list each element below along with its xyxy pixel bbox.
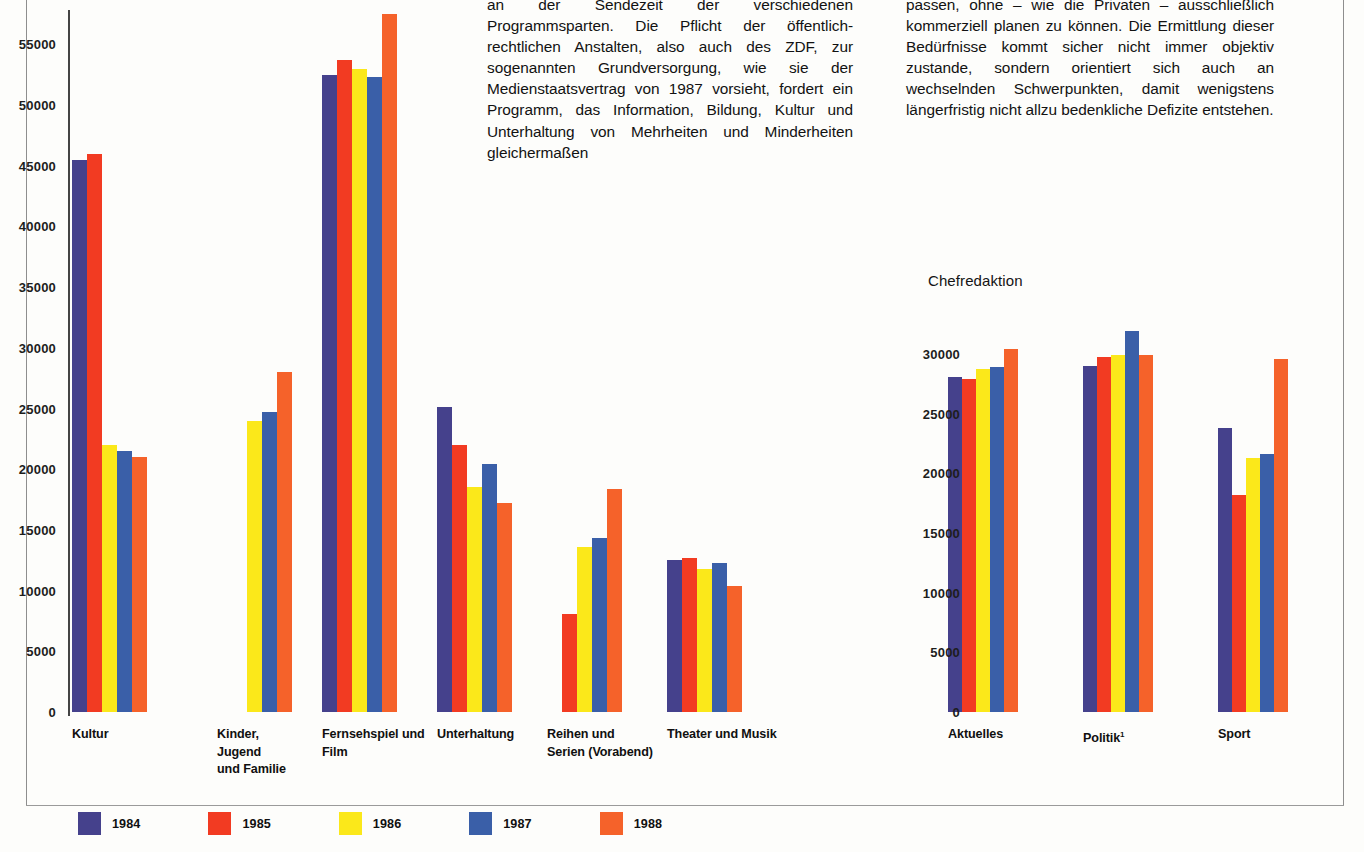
page-canvas: an der Sendezeit der verschiedenen Progr… <box>0 0 1364 852</box>
y-axis-line-left <box>68 10 70 716</box>
legend-swatch-1985 <box>208 812 231 835</box>
legend-item: 1984 <box>78 812 140 835</box>
bar-1987 <box>712 563 727 712</box>
legend-item: 1987 <box>469 812 531 835</box>
y-axis-labels-left: 0500010000150002000025000300003500040000… <box>0 14 64 712</box>
chart-title-chefredaktion: Chefredaktion <box>928 272 1023 289</box>
bar-1984 <box>72 160 87 712</box>
bar-1986 <box>1111 355 1125 712</box>
bar-1987 <box>592 538 607 712</box>
bar-1988 <box>1139 355 1153 712</box>
bar-1988 <box>132 457 147 712</box>
legend-label: 1988 <box>634 817 662 831</box>
y-axis-tick-label: 0 <box>953 705 960 720</box>
y-axis-tick-label: 10000 <box>19 583 56 598</box>
bar-1985 <box>87 154 102 712</box>
y-axis-tick-label: 5000 <box>26 644 56 659</box>
y-axis-labels-right: 050001000015000200002500030000 <box>908 318 968 712</box>
bar-1986 <box>102 445 117 712</box>
y-axis-tick-label: 15000 <box>19 522 56 537</box>
bar-1988 <box>1274 359 1288 712</box>
bar-group <box>322 14 397 712</box>
bar-group <box>547 14 622 712</box>
bar-1987 <box>1125 331 1139 712</box>
y-axis-tick-label: 50000 <box>19 98 56 113</box>
bar-1986 <box>976 369 990 712</box>
bar-1987 <box>262 412 277 712</box>
y-axis-tick-label: 40000 <box>19 219 56 234</box>
legend-swatch-1988 <box>600 812 623 835</box>
category-label: Sport <box>1218 726 1364 744</box>
bar-1984 <box>1218 428 1232 712</box>
legend-swatch-1984 <box>78 812 101 835</box>
bar-1985 <box>1232 495 1246 712</box>
legend-item: 1986 <box>339 812 401 835</box>
bar-1987 <box>482 464 497 712</box>
y-axis-tick-label: 10000 <box>923 585 960 600</box>
bar-1985 <box>562 614 577 712</box>
bar-group <box>667 14 742 712</box>
bar-1988 <box>607 489 622 712</box>
chart-programmsparten: 0500010000150002000025000300003500040000… <box>0 0 900 800</box>
bar-group <box>1083 318 1153 712</box>
bar-1985 <box>452 445 467 712</box>
bar-1984 <box>667 560 682 712</box>
y-axis-tick-label: 20000 <box>923 466 960 481</box>
bar-1987 <box>367 77 382 712</box>
bar-1986 <box>1246 458 1260 712</box>
bar-1985 <box>337 60 352 712</box>
bar-1986 <box>577 547 592 712</box>
bar-1985 <box>682 558 697 712</box>
bar-1986 <box>352 69 367 712</box>
chart-chefredaktion: Chefredaktion AktuellesPolitik1Sport <box>900 0 1364 800</box>
y-axis-tick-label: 30000 <box>19 340 56 355</box>
bar-groups-left: KulturKinder, Jugend und FamilieFernsehs… <box>72 14 872 712</box>
bar-1988 <box>1004 349 1018 712</box>
bar-1988 <box>727 586 742 712</box>
y-axis-tick-label: 5000 <box>930 645 960 660</box>
bar-1984 <box>322 75 337 712</box>
bar-1986 <box>467 487 482 712</box>
category-label: Theater und Musik <box>667 726 837 744</box>
bar-1986 <box>247 421 262 712</box>
bar-1988 <box>382 14 397 712</box>
bar-1987 <box>117 451 132 712</box>
legend-swatch-1987 <box>469 812 492 835</box>
y-axis-tick-label: 15000 <box>923 525 960 540</box>
y-axis-tick-label: 45000 <box>19 158 56 173</box>
bar-1988 <box>497 503 512 712</box>
bar-1984 <box>1083 366 1097 712</box>
bar-1984 <box>437 407 452 712</box>
bar-1988 <box>277 372 292 712</box>
legend-item: 1988 <box>600 812 662 835</box>
y-axis-tick-label: 35000 <box>19 280 56 295</box>
y-axis-tick-label: 25000 <box>19 401 56 416</box>
bar-groups-right: AktuellesPolitik1Sport <box>928 318 1328 712</box>
y-axis-tick-label: 0 <box>49 705 56 720</box>
legend-label: 1986 <box>373 817 401 831</box>
bar-1987 <box>1260 454 1274 712</box>
chart-legend: 19841985198619871988 <box>78 812 730 835</box>
bar-1986 <box>697 569 712 712</box>
legend-label: 1987 <box>503 817 531 831</box>
legend-item: 1985 <box>208 812 270 835</box>
bar-group <box>1218 318 1288 712</box>
legend-label: 1984 <box>112 817 140 831</box>
legend-swatch-1986 <box>339 812 362 835</box>
legend-label: 1985 <box>242 817 270 831</box>
bar-group <box>72 14 147 712</box>
bar-1985 <box>1097 357 1111 712</box>
plot-area-left: KulturKinder, Jugend und FamilieFernsehs… <box>72 14 872 712</box>
bar-group <box>217 14 292 712</box>
page-rule-bottom <box>26 805 1344 806</box>
plot-area-right: AktuellesPolitik1Sport <box>928 318 1328 712</box>
bar-group <box>437 14 512 712</box>
y-axis-tick-label: 20000 <box>19 462 56 477</box>
bar-1987 <box>990 367 1004 712</box>
y-axis-tick-label: 25000 <box>923 406 960 421</box>
y-axis-tick-label: 55000 <box>19 37 56 52</box>
y-axis-tick-label: 30000 <box>923 346 960 361</box>
